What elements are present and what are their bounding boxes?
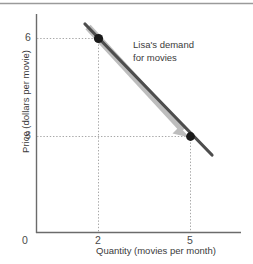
chart-figure: Price (dollars per movie) Quantity (movi… bbox=[0, 0, 253, 264]
annotation-line-2: for movies bbox=[133, 52, 177, 63]
chart-canvas bbox=[0, 0, 253, 264]
demand-curve-annotation: Lisa's demandfor movies bbox=[133, 39, 194, 65]
data-point-marker bbox=[186, 132, 195, 141]
x-tick-label-5: 5 bbox=[187, 234, 193, 246]
y-axis-label: Price (dollars per movie) bbox=[21, 31, 32, 171]
origin-label: 0 bbox=[22, 234, 28, 246]
y-tick-label-3: 3 bbox=[25, 129, 31, 141]
annotation-line-1: Lisa's demand bbox=[133, 39, 194, 50]
x-tick-label-2: 2 bbox=[95, 234, 101, 246]
y-tick-label-6: 6 bbox=[25, 31, 31, 43]
data-point-marker bbox=[94, 34, 103, 43]
x-axis-label: Quantity (movies per month) bbox=[96, 246, 216, 257]
